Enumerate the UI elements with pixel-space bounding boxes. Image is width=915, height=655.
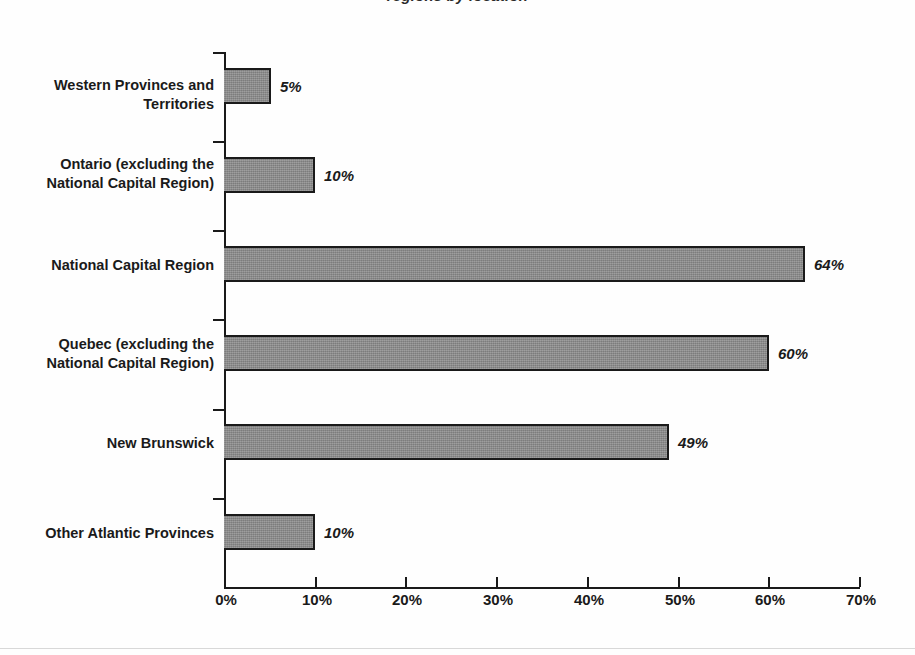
category-axis-line — [224, 52, 226, 589]
category-label-other-atlantic-provinces: Other Atlantic Provinces — [0, 524, 214, 564]
x-axis-tick — [859, 577, 861, 587]
chart-page: regions by location Western Provinces an… — [0, 0, 915, 655]
category-label-line1: Quebec (excluding the — [14, 335, 214, 354]
category-label-line1: Ontario (excluding the — [14, 155, 214, 174]
bar-ontario[interactable] — [224, 157, 315, 193]
bar-new-brunswick[interactable] — [224, 424, 669, 460]
category-axis-top-tick — [213, 52, 224, 54]
category-label-new-brunswick: New Brunswick — [0, 434, 214, 474]
category-separator-tick — [213, 319, 224, 321]
value-axis-line — [224, 587, 860, 589]
x-axis-tick-label: 70% — [831, 591, 891, 608]
x-axis-tick-label: 30% — [468, 591, 528, 608]
bar-chart: Western Provinces and Territories 5% Ont… — [0, 0, 915, 612]
category-label-line1: Other Atlantic Provinces — [14, 524, 214, 543]
category-label-line2: National Capital Region) — [14, 354, 214, 373]
x-axis-tick — [315, 577, 317, 587]
x-axis-tick-label: 40% — [559, 591, 619, 608]
category-label-ontario: Ontario (excluding the National Capital … — [0, 155, 214, 195]
x-axis-tick — [587, 577, 589, 587]
category-label-quebec: Quebec (excluding the National Capital R… — [0, 335, 214, 375]
bar-other-atlantic-provinces[interactable] — [224, 514, 315, 550]
x-axis-tick — [496, 577, 498, 587]
bar-value-new-brunswick: 49% — [678, 434, 708, 451]
bar-value-national-capital-region: 64% — [814, 256, 844, 273]
bar-value-quebec: 60% — [778, 345, 808, 362]
page-bottom-rule — [0, 648, 915, 649]
x-axis-tick-label: 20% — [377, 591, 437, 608]
x-axis-tick-label: 50% — [650, 591, 710, 608]
category-separator-tick — [213, 230, 224, 232]
category-label-line1: New Brunswick — [14, 434, 214, 453]
category-label-line2: Territories — [14, 95, 214, 114]
bar-western-provinces[interactable] — [224, 68, 271, 104]
bar-quebec[interactable] — [224, 335, 769, 371]
bar-value-ontario: 10% — [324, 167, 354, 184]
category-separator-tick — [213, 141, 224, 143]
x-axis-tick — [678, 577, 680, 587]
bar-value-other-atlantic-provinces: 10% — [324, 524, 354, 541]
x-axis-tick-label: 0% — [196, 591, 256, 608]
x-axis-tick-label: 60% — [740, 591, 800, 608]
category-label-western-provinces: Western Provinces and Territories — [0, 76, 214, 116]
category-label-line2: National Capital Region) — [14, 174, 214, 193]
bar-national-capital-region[interactable] — [224, 246, 805, 282]
bar-value-western-provinces: 5% — [280, 78, 302, 95]
x-axis-tick — [405, 577, 407, 587]
category-label-line1: Western Provinces and — [14, 76, 214, 95]
category-separator-tick — [213, 409, 224, 411]
x-axis-tick — [768, 577, 770, 587]
x-axis-tick — [224, 577, 226, 587]
category-separator-tick — [213, 498, 224, 500]
x-axis-tick-label: 10% — [287, 591, 347, 608]
category-label-line1: National Capital Region — [14, 256, 214, 275]
category-label-national-capital-region: National Capital Region — [0, 256, 214, 296]
